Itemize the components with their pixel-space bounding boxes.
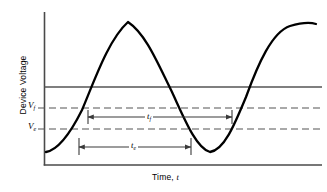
vf-axis-tick-label: Vf (28, 101, 35, 111)
ve-axis-tick-label: Ve (28, 122, 36, 132)
x-axis-label: Time, t (152, 173, 179, 182)
vf-subscript: f (34, 105, 36, 111)
te-interval-label: te (129, 141, 138, 151)
tf-interval-annotation (88, 110, 232, 124)
y-axis-label-text: Device Voltage (18, 56, 28, 115)
chart-canvas (0, 0, 327, 192)
x-axis-label-variable: t (177, 172, 180, 182)
figure-container: Device Voltage Time, t Vf Ve tf te (0, 0, 327, 192)
tf-subscript: f (149, 116, 151, 122)
tf-interval-label: tf (145, 112, 153, 122)
te-subscript: e (133, 145, 136, 151)
x-axis-label-prefix: Time, (152, 172, 177, 182)
ve-subscript: e (34, 126, 37, 132)
